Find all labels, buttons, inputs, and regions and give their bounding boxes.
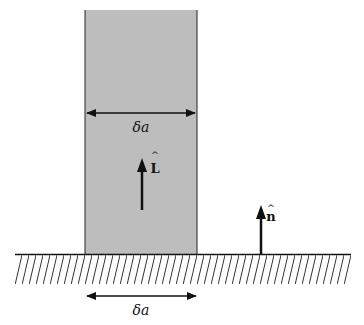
n-vector-label: n bbox=[266, 209, 276, 224]
ground-surface bbox=[15, 255, 351, 285]
diagram-canvas: δa ^ L ^ n δa bbox=[0, 0, 364, 325]
n-vector-arrow bbox=[256, 205, 266, 254]
L-vector-label: L bbox=[150, 161, 159, 176]
surface-width-label: δa bbox=[133, 302, 150, 318]
L-hat-accent: ^ bbox=[151, 149, 159, 160]
strip-width-label: δa bbox=[133, 119, 150, 135]
